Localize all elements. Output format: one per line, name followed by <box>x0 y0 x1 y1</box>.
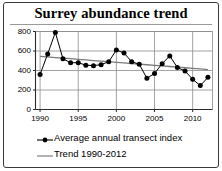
x-tick-label: 1990 <box>24 114 56 123</box>
chart-legend: Average annual transect index Trend 1990… <box>36 130 216 162</box>
x-tick-label: 2005 <box>139 114 171 123</box>
x-tick-label: 1995 <box>62 114 94 123</box>
y-tick-label: 800 <box>4 27 31 36</box>
chart-figure: Surrey abundance trend 02004006008001990… <box>0 0 222 171</box>
legend-key-line-with-marker <box>36 132 54 144</box>
x-tick-label: 2000 <box>100 114 132 123</box>
x-tick-label: 2010 <box>177 114 209 123</box>
legend-item-series: Average annual transect index <box>36 130 216 146</box>
legend-item-trend: Trend 1990-2012 <box>36 146 216 162</box>
data-points <box>38 30 211 88</box>
y-tick-label: 600 <box>4 46 31 55</box>
y-tick-label: 200 <box>4 85 31 94</box>
legend-label-trend: Trend 1990-2012 <box>54 148 127 160</box>
y-tick-label: 0 <box>4 105 31 114</box>
legend-label-series: Average annual transect index <box>54 132 182 144</box>
tick-marks <box>33 32 193 113</box>
y-tick-label: 400 <box>4 66 31 75</box>
legend-key-line <box>36 148 54 160</box>
